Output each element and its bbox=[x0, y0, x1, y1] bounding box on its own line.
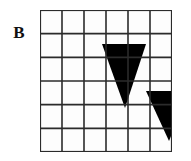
grid-cell bbox=[40, 81, 62, 105]
grid-cell bbox=[150, 57, 172, 81]
grid-cell bbox=[40, 34, 62, 58]
grid-svg bbox=[40, 10, 172, 152]
grid-cell bbox=[150, 34, 172, 58]
grid-cell bbox=[106, 10, 128, 34]
grid-cell bbox=[62, 81, 84, 105]
grid-cell bbox=[106, 105, 128, 129]
grid-cell bbox=[62, 10, 84, 34]
grid-cell bbox=[150, 10, 172, 34]
grid-cell bbox=[128, 10, 150, 34]
grid-cell bbox=[84, 10, 106, 34]
grid-container bbox=[40, 10, 172, 152]
grid-cell bbox=[40, 105, 62, 129]
grid-cell bbox=[62, 105, 84, 129]
grid-cell bbox=[128, 105, 150, 129]
panel-label: B bbox=[7, 21, 31, 45]
grid-cell bbox=[106, 128, 128, 152]
grid-cell bbox=[84, 81, 106, 105]
grid-cell bbox=[84, 57, 106, 81]
grid-cell bbox=[40, 57, 62, 81]
grid-cell bbox=[84, 128, 106, 152]
grid-cell bbox=[62, 34, 84, 58]
grid-cell bbox=[40, 128, 62, 152]
grid-cell bbox=[62, 128, 84, 152]
grid-cell bbox=[40, 10, 62, 34]
grid-cell bbox=[84, 105, 106, 129]
figure-panel: B bbox=[0, 0, 191, 161]
grid-cell bbox=[128, 128, 150, 152]
grid-cell bbox=[62, 57, 84, 81]
